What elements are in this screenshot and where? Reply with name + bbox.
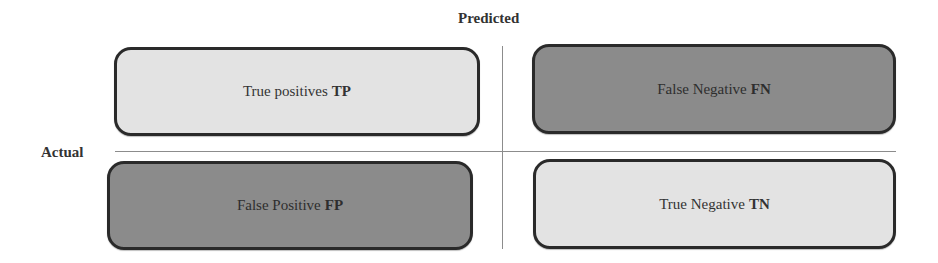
predicted-axis-label: Predicted [458, 10, 519, 27]
cell-abbreviation: FP [325, 197, 343, 214]
true-positive-cell: True positives TP [114, 47, 480, 136]
cell-abbreviation: TN [749, 196, 770, 213]
cell-label: False Negative [657, 81, 747, 98]
cell-abbreviation: TP [332, 83, 351, 100]
vertical-divider [502, 46, 503, 249]
true-negative-cell: True Negative TN [533, 159, 896, 249]
horizontal-divider [115, 151, 896, 152]
cell-label: True positives [243, 83, 328, 100]
false-positive-cell: False Positive FP [107, 161, 473, 250]
cell-label: True Negative [659, 196, 745, 213]
false-negative-cell: False Negative FN [532, 44, 896, 134]
cell-label: False Positive [237, 197, 321, 214]
cell-abbreviation: FN [751, 81, 771, 98]
actual-axis-label: Actual [41, 144, 84, 161]
